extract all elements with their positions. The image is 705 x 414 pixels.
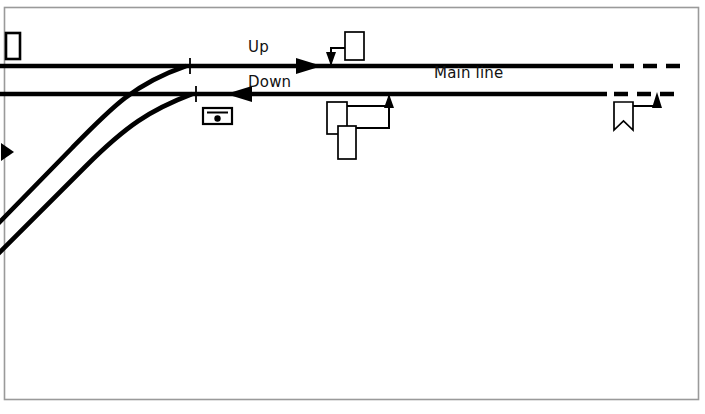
ground-disc-signal-dot-icon [214,115,220,121]
down-distant-signal[interactable] [614,92,662,130]
down-home-signal-lower-bracket [347,106,389,128]
ground-disc-signal[interactable] [203,108,232,124]
upper-converging-branch [0,66,186,232]
up-direction-arrow-icon [296,58,322,74]
down-home-signal[interactable] [327,94,394,159]
branch-direction-arrow-icon [1,143,14,161]
up-line-label: Up [248,40,269,55]
up-home-signal[interactable] [326,32,364,66]
down-home-signal-lower-arm-icon [338,126,356,159]
main-line-label: Main line [434,66,503,81]
lower-converging-branch [0,94,192,262]
track-layout-svg [0,0,705,414]
down-line-label: Down [248,75,291,90]
up-outer-signal[interactable] [6,33,20,59]
down-distant-signal-fishtail-arm-icon [614,102,633,130]
up-home-signal-arm-icon [345,32,364,60]
up-outer-signal-arm-icon [6,33,20,59]
signalling-diagram: Up Down Main line [0,0,705,414]
